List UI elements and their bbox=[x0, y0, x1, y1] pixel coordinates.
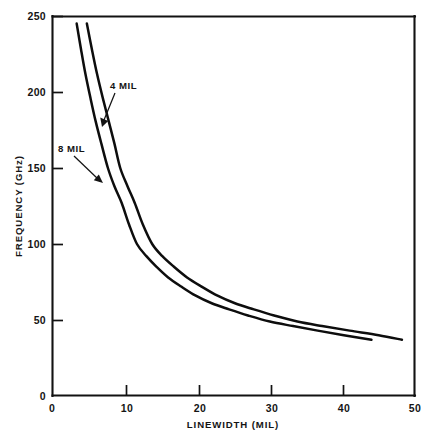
y-tick-label-50: 50 bbox=[34, 314, 46, 326]
data-series-group bbox=[77, 24, 402, 340]
series-label-4-mil: 4 MIL bbox=[110, 80, 137, 91]
y-tick-label-250: 250 bbox=[28, 10, 46, 22]
y-tick-label-200: 200 bbox=[28, 86, 46, 98]
x-tick-label-10: 10 bbox=[121, 402, 133, 414]
line-chart: 250 200 150 100 50 0 0 10 20 30 40 50 LI… bbox=[0, 0, 433, 435]
series-label-8-mil: 8 MIL bbox=[58, 143, 85, 154]
x-axis-title: LINEWIDTH (MIL) bbox=[187, 419, 279, 430]
figure-container: 250 200 150 100 50 0 0 10 20 30 40 50 LI… bbox=[0, 0, 433, 435]
x-tick-label-0: 0 bbox=[49, 402, 55, 414]
x-tick-label-30: 30 bbox=[266, 402, 278, 414]
x-tick-labels: 0 10 20 30 40 50 bbox=[49, 402, 421, 414]
y-tick-labels: 250 200 150 100 50 0 bbox=[28, 10, 46, 402]
curve-8-mil bbox=[77, 24, 372, 340]
y-tick-label-100: 100 bbox=[28, 238, 46, 250]
y-tick-label-0: 0 bbox=[40, 390, 46, 402]
y-tick-label-150: 150 bbox=[28, 162, 46, 174]
y-axis-title: FREQUENCY (GHz) bbox=[13, 155, 24, 257]
x-tick-label-50: 50 bbox=[409, 402, 421, 414]
y-axis-ticks bbox=[52, 17, 63, 321]
x-axis-ticks bbox=[127, 385, 344, 396]
curve-4-mil bbox=[87, 24, 402, 340]
leader-line-8-mil bbox=[74, 156, 98, 179]
annotation-4-mil: 4 MIL bbox=[100, 80, 137, 127]
x-tick-label-40: 40 bbox=[338, 402, 350, 414]
x-tick-label-20: 20 bbox=[194, 402, 206, 414]
annotation-8-mil: 8 MIL bbox=[58, 143, 103, 183]
